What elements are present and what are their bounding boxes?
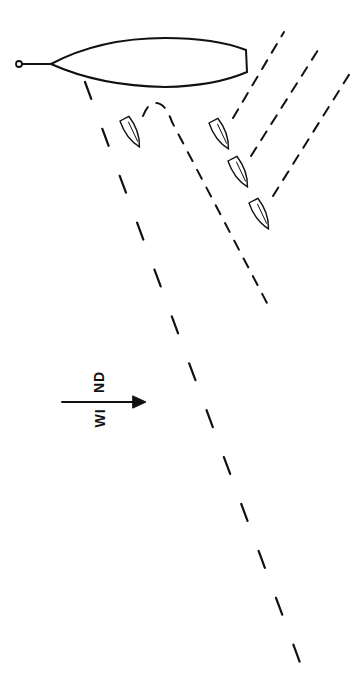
boat-4	[248, 198, 273, 232]
right-arrow-icon	[62, 396, 146, 408]
long-course-line	[85, 82, 302, 668]
boat-1	[119, 116, 144, 150]
boat-4-course	[273, 70, 352, 196]
sailing-diagram-canvas	[0, 0, 355, 680]
wind-label-part-2: ND	[91, 371, 107, 393]
anchor-mark	[16, 61, 51, 67]
boat-3	[227, 156, 252, 190]
boat-2	[208, 118, 233, 152]
committee-boat-hull	[51, 38, 247, 87]
wind-label-part-1: WI	[92, 408, 108, 427]
